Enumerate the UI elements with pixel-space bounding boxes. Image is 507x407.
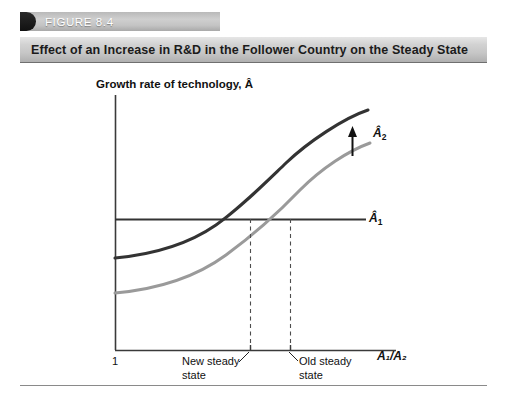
leader-line-old-steady-state [289, 352, 298, 361]
annotation-old-steady-state-line2: state [299, 369, 352, 383]
annotation-new-steady-state-line2: state [182, 369, 239, 383]
figure-container: FIGURE 8.4 Effect of an Increase in R&D … [0, 0, 507, 407]
x-axis-origin-label: 1 [112, 355, 118, 367]
series-curve-a2-old [115, 143, 370, 293]
annotation-new-steady-state: New steady state [182, 355, 239, 382]
x-axis-title-text: A₁/A₂ [377, 349, 406, 363]
leader-line-new-steady-state [239, 352, 249, 362]
series-label-a2: Â2 [373, 126, 386, 142]
annotation-old-steady-state-line1: Old steady [299, 355, 352, 369]
series-label-a1-subscript: 1 [378, 217, 383, 227]
series-label-a2-text: Â [373, 126, 382, 140]
series-label-a2-subscript: 2 [382, 132, 387, 142]
y-axis-title: Growth rate of technology, Â [96, 78, 253, 90]
chart-svg [0, 0, 507, 407]
chart-plot-area: Growth rate of technology, Â Â1 Â2 1 A… [0, 0, 507, 407]
series-label-a1-text: Â [369, 211, 378, 225]
series-curve-a2-new [115, 110, 368, 258]
annotation-old-steady-state: Old steady state [299, 355, 352, 382]
series-label-a1: Â1 [369, 211, 382, 227]
figure-bottom-rule [20, 385, 487, 386]
annotation-new-steady-state-line1: New steady [182, 355, 239, 369]
x-axis-title: A₁/A₂ [377, 349, 406, 363]
